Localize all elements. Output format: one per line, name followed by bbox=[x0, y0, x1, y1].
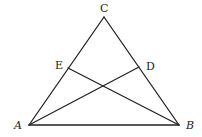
diagram-svg: CEDAB bbox=[0, 0, 202, 137]
segment-ca bbox=[29, 17, 104, 125]
segments bbox=[29, 17, 179, 125]
vertex-label-b: B bbox=[185, 119, 194, 132]
labels: CEDAB bbox=[13, 2, 194, 132]
vertex-label-e: E bbox=[55, 59, 63, 72]
segment-be bbox=[68, 68, 179, 125]
triangle-diagram: CEDAB bbox=[0, 0, 202, 137]
vertex-label-a: A bbox=[13, 119, 22, 132]
vertex-label-c: C bbox=[100, 2, 108, 15]
vertex-label-d: D bbox=[146, 60, 155, 73]
segment-bc bbox=[104, 17, 179, 125]
